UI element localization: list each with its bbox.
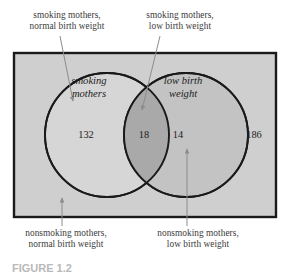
count-smoking-normal-birth-weight: 132 [72,129,100,140]
set-label-right-line1: low birth [150,75,216,88]
callout-nonsmoking-low-birth-weight: nonsmoking mothers, low birth weight [136,228,260,251]
count-smoking-low-birth-weight: 18 [133,129,155,140]
set-label-left-line1: smoking [56,75,122,88]
callout-top-left-line2: normal birth weight [8,21,126,32]
set-label-low-birth-weight: low birth weight [150,75,216,100]
set-label-smoking-mothers: smoking mothers [56,75,122,100]
callout-bottom-right-line2: low birth weight [136,239,260,250]
callout-smoking-normal-birth-weight: smoking mothers, normal birth weight [8,10,126,33]
callout-top-left-line1: smoking mothers, [8,10,126,21]
callout-bottom-left-line2: normal birth weight [2,239,130,250]
callout-bottom-left-line1: nonsmoking mothers, [2,228,130,239]
venn-figure: smoking mothers, normal birth weight smo… [0,0,286,272]
callout-smoking-low-birth-weight: smoking mothers, low birth weight [128,10,232,33]
count-nonsmoking-low-birth-weight: 14 [167,129,189,140]
figure-caption: FIGURE 1.2 [12,262,72,272]
set-label-left-line2: mothers [56,88,122,101]
callout-top-right-line1: smoking mothers, [128,10,232,21]
set-label-right-line2: weight [150,88,216,101]
callout-nonsmoking-normal-birth-weight: nonsmoking mothers, normal birth weight [2,228,130,251]
count-nonsmoking-normal-birth-weight: 186 [240,129,268,140]
callout-bottom-right-line1: nonsmoking mothers, [136,228,260,239]
callout-top-right-line2: low birth weight [128,21,232,32]
